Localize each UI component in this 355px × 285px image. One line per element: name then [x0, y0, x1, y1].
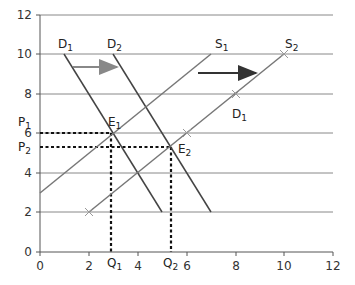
label-e2: E2 — [178, 142, 191, 158]
label-d1: D1 — [58, 37, 73, 53]
x-tick-8: 8 — [232, 259, 240, 273]
y-tick-4: 4 — [24, 166, 32, 180]
label-q2: Q2 — [163, 256, 178, 272]
label-s2: S2 — [285, 37, 298, 53]
label-p1: P1 — [18, 115, 31, 131]
y-tick-10: 10 — [17, 47, 32, 61]
label-d2: D2 — [107, 37, 122, 53]
label-e1: E1 — [108, 115, 121, 131]
supply-demand-chart: 12 10 8 6 4 2 0 0 2 4 6 8 10 12 — [0, 0, 355, 285]
x-tick-labels: 0 2 4 6 8 10 12 — [36, 259, 340, 273]
x-tick-4: 4 — [134, 259, 142, 273]
x-tick-12: 12 — [325, 259, 340, 273]
x-tick-2: 2 — [85, 259, 93, 273]
label-s1: S1 — [215, 37, 228, 53]
y-tick-2: 2 — [24, 205, 32, 219]
label-d1-near-s2: D1 — [232, 107, 247, 123]
y-tick-8: 8 — [24, 87, 32, 101]
x-tick-0: 0 — [36, 259, 44, 273]
y-tick-0: 0 — [24, 245, 32, 259]
equilibrium-guides — [40, 133, 171, 252]
label-q1: Q1 — [107, 256, 122, 272]
x-tick-6: 6 — [183, 259, 191, 273]
y-tick-labels: 12 10 8 6 4 2 0 — [17, 8, 32, 259]
label-p2: P2 — [18, 140, 31, 156]
x-tick-10: 10 — [276, 259, 291, 273]
y-tick-12: 12 — [17, 8, 32, 22]
